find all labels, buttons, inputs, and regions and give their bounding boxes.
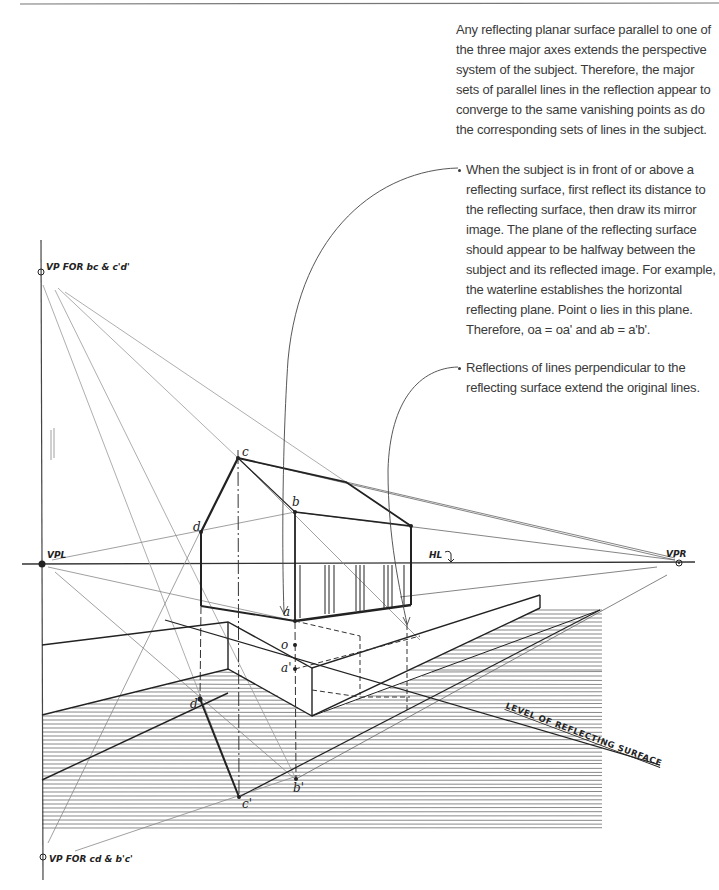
point-label-d-prime: d' (190, 697, 201, 711)
point-label-o: o (281, 638, 288, 652)
point-label-b: b (292, 495, 300, 509)
point-label-c-prime: c' (242, 797, 252, 811)
water-hatching-right (409, 610, 602, 670)
hl-label: HL (429, 550, 443, 560)
house (201, 458, 411, 621)
reflecting-level-label: LEVEL OF REFLECTING SURFACE (504, 701, 663, 769)
note-bullet-text: When the subject is in front of or above… (466, 162, 716, 337)
hl-arrow-icon (445, 551, 454, 562)
wall-base-right (295, 605, 411, 621)
point-markers (198, 456, 414, 799)
point-label-d: d (193, 520, 201, 534)
point-label-c: c (242, 445, 249, 459)
note-bullet-text: Reflections of lines perpendicular to th… (466, 360, 700, 395)
roof-hip (238, 458, 295, 512)
intro-paragraph: Any reflecting planar surface parallel t… (456, 20, 716, 140)
horizon-line (22, 562, 695, 564)
vpr-marker (676, 560, 682, 566)
construction-lines-vpl (48, 458, 420, 779)
c-vertical-axis (238, 450, 239, 800)
point-label-a: a (283, 605, 290, 619)
note-bullet-reflect-distance: When the subject is in front of or above… (466, 160, 718, 340)
bullet-dot (458, 169, 461, 172)
vpl-marker (39, 561, 46, 568)
bullet-dot (458, 367, 461, 370)
point-label-a-prime: a' (281, 661, 291, 675)
point-label-b-prime: b' (293, 781, 304, 795)
construction-lines-vpr (238, 458, 675, 779)
top-rule (20, 3, 719, 4)
window-mullions (300, 565, 404, 618)
vp-bottom-label: VP FOR cd & b'c' (49, 854, 133, 864)
roof-left-edge (201, 458, 238, 532)
water-hatching (42, 672, 602, 828)
vpl-label: VPL (47, 550, 67, 560)
note-bullet-perpendicular-lines: Reflections of lines perpendicular to th… (466, 358, 718, 398)
d-vertical-extension (200, 606, 201, 699)
vpr-label: VPR (666, 549, 687, 559)
vp-top-label: VP FOR bc & c'd' (46, 262, 130, 272)
reflection-construction-dashed (295, 621, 420, 712)
annotation-arrow-2 (283, 168, 458, 612)
